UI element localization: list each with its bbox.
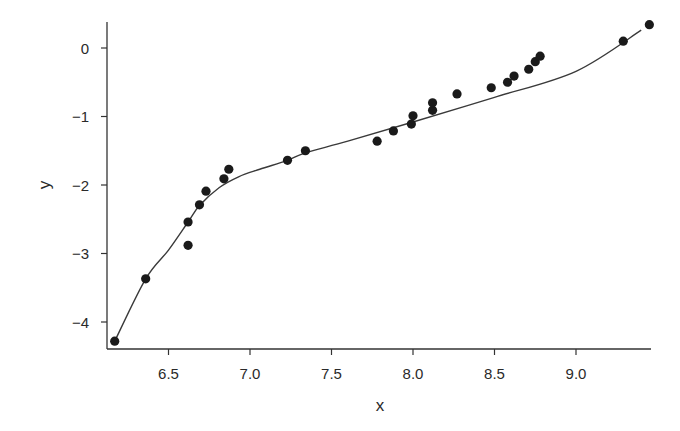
- data-point: [110, 337, 119, 346]
- y-tick-label: −4: [72, 314, 89, 331]
- y-tick-label: −2: [72, 177, 89, 194]
- data-point: [407, 119, 416, 128]
- data-point: [219, 174, 228, 183]
- data-point: [301, 146, 310, 155]
- x-tick-label: 8.5: [484, 365, 505, 382]
- data-point: [509, 71, 518, 80]
- data-point: [645, 20, 654, 29]
- data-point: [141, 274, 150, 283]
- y-tick-label: −1: [72, 108, 89, 125]
- chart: 0−1−2−3−4 6.57.07.58.08.59.0 x y: [0, 0, 680, 431]
- x-tick-label: 8.0: [403, 365, 424, 382]
- data-point: [428, 98, 437, 107]
- data-points: [110, 20, 654, 346]
- plot-area: 0−1−2−3−4 6.57.07.58.08.59.0: [72, 20, 654, 382]
- data-point: [408, 111, 417, 120]
- x-ticks: 6.57.07.58.08.59.0: [158, 349, 586, 382]
- x-tick-label: 7.0: [240, 365, 261, 382]
- data-point: [283, 156, 292, 165]
- x-tick-label: 7.5: [321, 365, 342, 382]
- y-tick-label: −3: [72, 245, 89, 262]
- x-tick-label: 6.5: [158, 365, 179, 382]
- data-point: [389, 126, 398, 135]
- data-point: [487, 83, 496, 92]
- y-tick-label: 0: [81, 40, 89, 57]
- data-point: [524, 65, 533, 74]
- x-axis-label: x: [376, 396, 385, 415]
- fitted-curve: [115, 30, 641, 341]
- data-point: [536, 52, 545, 61]
- data-point: [619, 37, 628, 46]
- data-point: [183, 241, 192, 250]
- y-axis-label: y: [35, 180, 54, 189]
- data-point: [224, 165, 233, 174]
- data-point: [195, 200, 204, 209]
- y-ticks: 0−1−2−3−4: [72, 40, 107, 331]
- data-point: [183, 217, 192, 226]
- x-tick-label: 9.0: [566, 365, 587, 382]
- data-point: [373, 137, 382, 146]
- data-point: [201, 187, 210, 196]
- data-point: [452, 89, 461, 98]
